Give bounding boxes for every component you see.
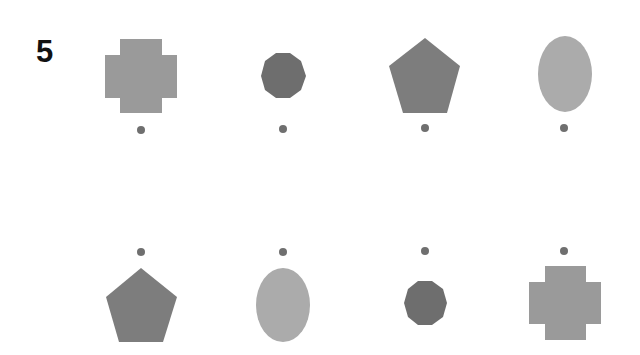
decagon-shape: [404, 281, 447, 325]
decagon-shape: [261, 53, 306, 98]
dot-marker: [421, 124, 429, 132]
dot-marker: [279, 125, 287, 133]
dot-marker: [560, 247, 568, 255]
bottom-row: [106, 247, 601, 342]
dot-marker: [137, 248, 145, 256]
ellipse-shape: [538, 36, 592, 112]
cross-shape: [105, 39, 177, 113]
dot-marker: [137, 126, 145, 134]
dot-marker: [279, 248, 287, 256]
shapes-canvas: [0, 0, 640, 355]
cross-shape: [529, 266, 601, 340]
top-row: [105, 36, 592, 134]
dot-marker: [421, 247, 429, 255]
ellipse-shape: [256, 268, 310, 342]
dot-marker: [560, 124, 568, 132]
pentagon-shape: [389, 38, 460, 113]
pentagon-shape: [106, 268, 177, 342]
